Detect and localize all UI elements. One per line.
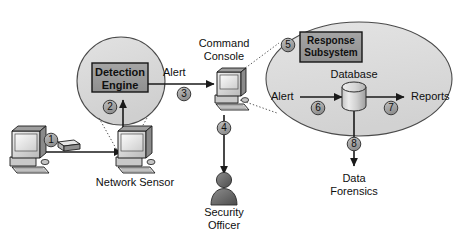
alert-label-engine-console: Alert (163, 66, 186, 79)
step-badge-4-label: 4 (217, 122, 231, 134)
command-console-label: Command Console (186, 37, 262, 62)
step-badge-2-label: 2 (103, 101, 117, 113)
alert-label-database: Alert (271, 90, 294, 103)
database-label: Database (316, 68, 392, 81)
command-console-label-line1: Command (186, 37, 262, 50)
step-badge-1-label: 1 (44, 134, 58, 146)
step-badge-6-label: 6 (311, 102, 325, 114)
network-security-diagram: Detection Engine Response Subsystem Comm… (0, 0, 461, 235)
security-officer-label: Security Officer (184, 206, 264, 231)
database-icon (342, 82, 366, 111)
response-subsystem-label-line1: Response (299, 35, 363, 47)
step-badge-8-label: 8 (347, 138, 361, 150)
step-badge-5-label: 5 (281, 39, 295, 51)
detection-engine-label-line2: Engine (92, 79, 148, 92)
packet-icon (58, 140, 80, 151)
detection-engine-label-line1: Detection (92, 66, 148, 79)
network-sensor-icon (116, 126, 155, 173)
detection-engine-label: Detection Engine (92, 66, 148, 91)
data-forensics-label-line2: Forensics (314, 185, 394, 198)
command-console-label-line2: Console (186, 50, 262, 63)
reports-label: Reports (411, 90, 450, 103)
command-console-icon (215, 68, 249, 110)
response-subsystem-label-line2: Subsystem (299, 47, 363, 59)
diagram-canvas (0, 0, 461, 235)
data-forensics-label: Data Forensics (314, 172, 394, 197)
security-officer-label-line2: Officer (184, 219, 264, 232)
network-sensor-label: Network Sensor (80, 176, 190, 189)
response-subsystem-label: Response Subsystem (299, 35, 363, 58)
step-badge-7-label: 7 (384, 102, 398, 114)
step-badge-3-label: 3 (177, 88, 191, 100)
security-officer-label-line1: Security (184, 206, 264, 219)
security-officer-icon (211, 172, 237, 205)
data-forensics-label-line1: Data (314, 172, 394, 185)
